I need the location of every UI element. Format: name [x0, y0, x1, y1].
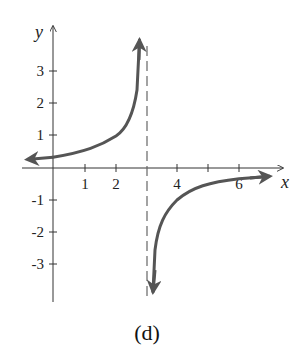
graph: 1 2 4 6 3 2 1 -1 -2 -3 x y (d) [0, 0, 304, 357]
y-tick-label-3: 3 [37, 63, 45, 79]
y-tick-label-1: 1 [37, 127, 45, 143]
y-tick-label-neg3: -3 [32, 256, 45, 272]
x-tick-label-1: 1 [81, 176, 89, 192]
y-tick-label-2: 2 [37, 95, 45, 111]
y-tick-label-neg1: -1 [32, 192, 45, 208]
left-branch-start [27, 157, 53, 159]
right-branch-start [153, 270, 155, 292]
curve-right-branch [153, 177, 268, 293]
right-branch-end [250, 176, 270, 178]
figure-caption: (d) [134, 320, 160, 345]
x-tick-label-4: 4 [173, 176, 181, 192]
x-axis-label: x [280, 172, 289, 192]
left-branch-end [139, 40, 140, 60]
y-tick-label-neg2: -2 [32, 224, 45, 240]
curve-left-branch [53, 40, 140, 157]
x-tick-label-2: 2 [112, 176, 120, 192]
y-axis-label: y [33, 22, 43, 42]
